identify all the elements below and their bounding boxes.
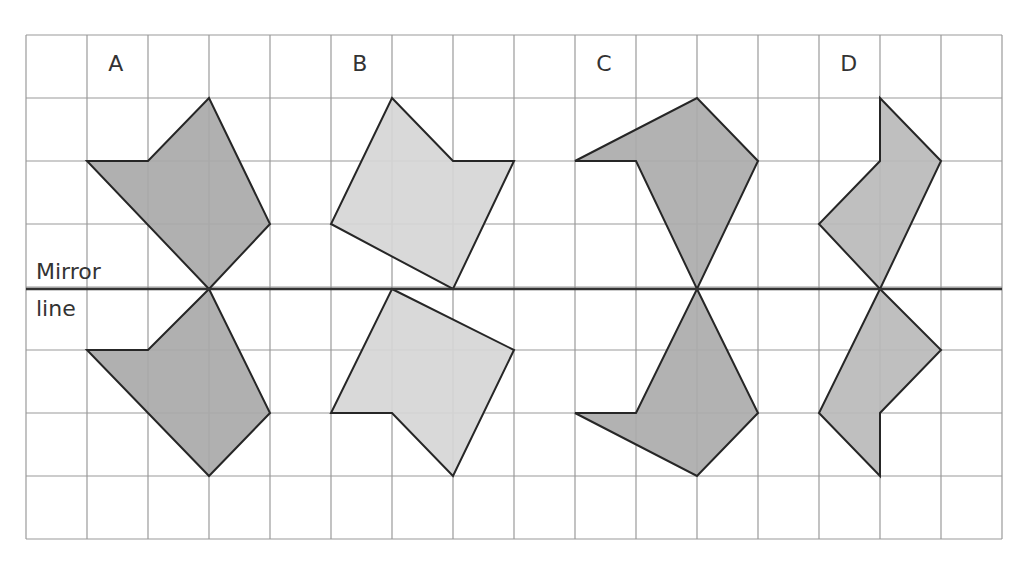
shape-d-original bbox=[819, 98, 941, 289]
reflection-diagram: ABCD Mirror line bbox=[0, 0, 1025, 566]
diagram-canvas: ABCD Mirror line bbox=[0, 0, 1025, 566]
shape-c-original bbox=[575, 98, 758, 289]
square-grid bbox=[26, 35, 1002, 539]
shape-label-c: C bbox=[596, 51, 611, 76]
shape-a-reflection bbox=[87, 289, 270, 476]
shape-label-b: B bbox=[352, 51, 367, 76]
labels-layer: ABCD bbox=[108, 51, 857, 76]
shape-label-a: A bbox=[108, 51, 123, 76]
shape-a-original bbox=[87, 98, 270, 289]
mirror-label-line1: Mirror bbox=[36, 259, 102, 284]
shape-b-reflection bbox=[331, 289, 514, 476]
shape-label-d: D bbox=[840, 51, 857, 76]
shape-c-reflection bbox=[575, 289, 758, 476]
shape-b-original bbox=[331, 98, 514, 289]
mirror-label-line2: line bbox=[36, 296, 76, 321]
shape-d-reflection bbox=[819, 289, 941, 476]
